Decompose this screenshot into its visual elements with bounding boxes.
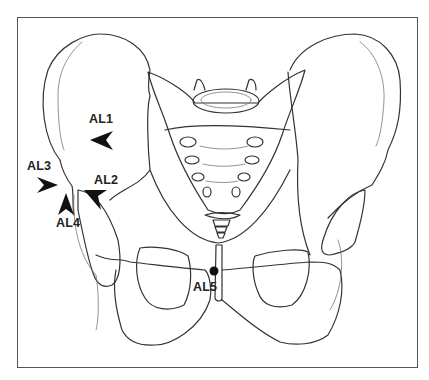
- label-al5: AL5: [193, 281, 217, 294]
- pelvis-illustration: [0, 0, 429, 380]
- right-obturator-foramen: [253, 250, 309, 307]
- al2-arrowhead-icon: [84, 190, 107, 210]
- label-al2: AL2: [94, 174, 118, 187]
- al4-arrowhead-icon: [58, 193, 74, 215]
- right-acetabulum: [322, 190, 365, 255]
- sacrum: [148, 70, 305, 214]
- left-obturator-foramen: [137, 247, 191, 309]
- al5-dot-icon: [210, 267, 219, 276]
- al1-arrowhead-icon: [90, 131, 113, 150]
- right-iliac-wing: [290, 34, 401, 218]
- label-al3: AL3: [27, 160, 51, 173]
- label-al4: AL4: [56, 217, 80, 230]
- label-al1: AL1: [89, 113, 113, 126]
- al3-arrowhead-icon: [37, 177, 58, 193]
- sacral-promontory: [193, 89, 259, 113]
